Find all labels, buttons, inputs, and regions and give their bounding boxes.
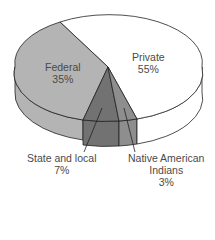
label-native-name1: Native American [128,152,204,164]
state-side [83,120,119,146]
label-state-name: State and local [27,152,96,164]
label-private-pct: 55% [132,63,165,75]
label-state-pct: 7% [27,164,96,176]
label-federal: Federal 35% [45,61,81,85]
label-native-pct: 3% [128,176,204,188]
label-state: State and local 7% [27,152,96,176]
label-federal-name: Federal [45,61,81,73]
label-federal-pct: 35% [45,73,81,85]
label-private-name: Private [132,51,165,63]
label-native: Native American Indians 3% [128,152,204,188]
label-native-name2: Indians [128,164,204,176]
label-private: Private 55% [132,51,165,75]
